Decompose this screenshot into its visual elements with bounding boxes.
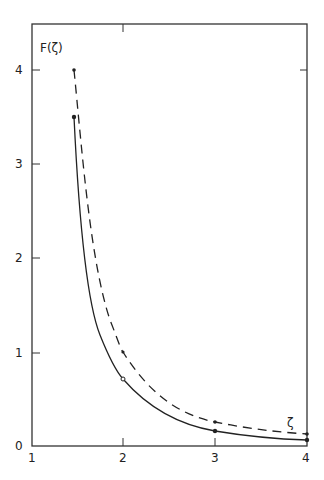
y-ticks <box>32 70 40 353</box>
solid-curve <box>74 117 307 440</box>
dashed-curve <box>74 70 307 434</box>
x-tick-label: 2 <box>119 451 127 465</box>
x-tick-label: 3 <box>211 451 219 465</box>
y-tick-label: 2 <box>15 251 23 265</box>
dashed-points <box>72 68 309 436</box>
y-tick-label: 3 <box>15 157 23 171</box>
x-axis-title: ζ <box>287 416 294 430</box>
y-tick-label: 0 <box>15 439 23 453</box>
plot-frame <box>32 24 307 446</box>
solid-points <box>72 115 309 442</box>
y-axis-title: F(ζ) <box>40 41 63 55</box>
x-tick-label: 4 <box>302 451 310 465</box>
x-ticks <box>123 438 215 446</box>
x-tick-label: 1 <box>28 451 36 465</box>
y-tick-label: 4 <box>15 63 23 77</box>
y-tick-label: 1 <box>15 346 23 360</box>
chart: 4 3 2 1 0 1 2 3 4 F(ζ) ζ <box>0 0 324 480</box>
